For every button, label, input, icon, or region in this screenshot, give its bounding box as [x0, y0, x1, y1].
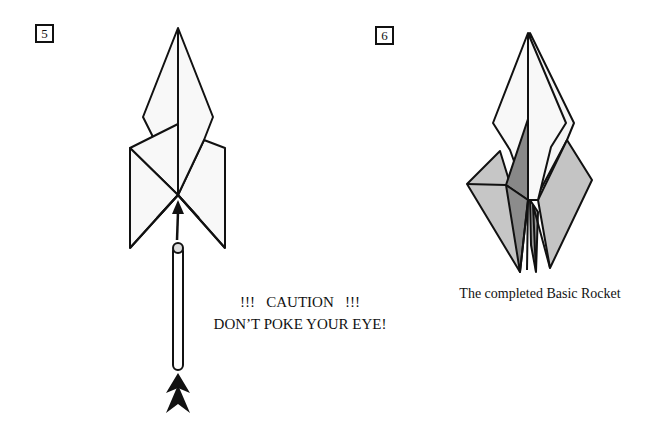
caution-line-1: !!! CAUTION !!! [200, 291, 400, 313]
step-6-rocket [467, 33, 592, 272]
poking-stick [173, 243, 183, 370]
arrow-up-icon [172, 200, 184, 240]
caution-text: !!! CAUTION !!! DON’T POKE YOUR EYE! [200, 291, 400, 335]
rocket-diagrams [0, 0, 661, 434]
caution-line-2: DON’T POKE YOUR EYE! [200, 313, 400, 335]
double-chevron-up-icon [166, 373, 190, 413]
step-6-caption: The completed Basic Rocket [440, 286, 640, 302]
